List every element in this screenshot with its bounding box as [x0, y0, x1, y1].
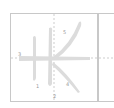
stroke-number-4: 4: [66, 82, 69, 87]
stroke-5: [53, 22, 81, 61]
stroke-number-5: 5: [63, 30, 66, 35]
stroke-number-3: 3: [18, 52, 21, 57]
stroke-4: [52, 62, 80, 93]
stroke-number-2: 2: [53, 94, 56, 99]
stroke-number-1: 1: [36, 84, 39, 89]
